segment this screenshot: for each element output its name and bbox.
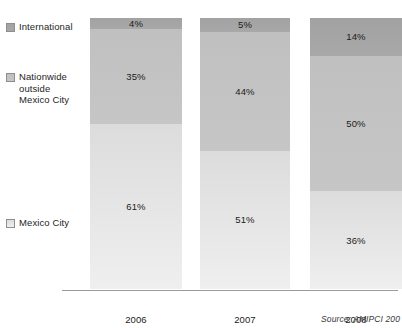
segment-nationwide-2007[interactable]: 44% [200, 32, 290, 151]
segment-label-nationwide-2006: 35% [126, 71, 145, 82]
stacked-bar-2006[interactable]: 4% 35% 61% [90, 18, 182, 289]
segment-nationwide-2008[interactable]: 50% [310, 56, 402, 192]
legend-item-international[interactable]: International [6, 21, 73, 33]
legend-item-nationwide-outside-mexico-city[interactable]: Nationwide outside Mexico City [6, 71, 69, 106]
source-note: Source: AMIPCI 200 [321, 314, 400, 324]
legend-label-nationwide: Nationwide outside Mexico City [19, 71, 69, 106]
segment-label-nationwide-2007: 44% [235, 86, 254, 97]
x-axis-line [62, 290, 398, 291]
legend-label-mexico-city: Mexico City [19, 217, 69, 229]
chart-legend: International Nationwide outside Mexico … [0, 0, 92, 328]
segment-international-2008[interactable]: 14% [310, 18, 402, 56]
legend-item-mexico-city[interactable]: Mexico City [6, 217, 69, 229]
axis-label-2007: 2007 [200, 314, 290, 325]
segment-label-mexico-city-2007: 51% [235, 214, 254, 225]
bar-group-2007: $955M USD 5% 44% 51% 2007 [200, 18, 290, 289]
segment-label-international-2006: 4% [129, 18, 143, 29]
legend-swatch-nationwide [6, 73, 15, 82]
segment-nationwide-2006[interactable]: 35% [90, 29, 182, 124]
segment-label-mexico-city-2008: 36% [346, 235, 365, 246]
segment-label-international-2007: 5% [238, 19, 252, 30]
segment-label-international-2008: 14% [346, 31, 365, 42]
segment-mexico-city-2008[interactable]: 36% [310, 191, 402, 289]
segment-label-nationwide-2008: 50% [346, 118, 365, 129]
plot-area: $537M USD 4% 35% 61% 2006 $955M USD 5% [90, 0, 398, 328]
stacked-bar-2007[interactable]: 5% 44% 51% [200, 18, 290, 289]
axis-label-2006: 2006 [90, 314, 182, 325]
legend-label-international: International [19, 21, 73, 33]
bar-group-2006: $537M USD 4% 35% 61% 2006 [90, 18, 182, 289]
bar-group-2008: $1,768M USD 14% 50% 36% 2008 [310, 18, 402, 289]
segment-mexico-city-2007[interactable]: 51% [200, 151, 290, 289]
segment-label-mexico-city-2006: 61% [126, 201, 145, 212]
segment-mexico-city-2006[interactable]: 61% [90, 124, 182, 289]
legend-swatch-mexico-city [6, 219, 15, 228]
stacked-bar-2008[interactable]: 14% 50% 36% [310, 18, 402, 289]
segment-international-2006[interactable]: 4% [90, 18, 182, 29]
legend-swatch-international [6, 23, 15, 32]
segment-international-2007[interactable]: 5% [200, 18, 290, 32]
